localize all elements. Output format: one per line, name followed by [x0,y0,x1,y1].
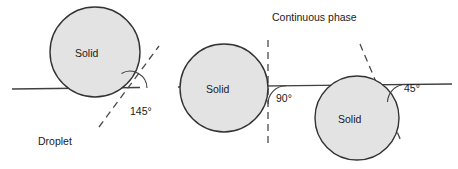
caption-continuous-phase: Continuous phase [272,12,357,23]
contact-angle-diagram: Continuous phase Droplet Solid Solid Sol… [0,0,458,169]
solid-label-left: Solid [75,48,98,59]
particle-right-group [315,44,402,160]
angle-label-145: 145° [130,106,152,117]
particle-middle-group [180,40,286,146]
angle-label-45: 45° [404,83,420,94]
angle-label-90: 90° [276,93,292,104]
solid-label-middle: Solid [206,84,229,95]
solid-label-right: Solid [338,114,361,125]
caption-droplet: Droplet [38,136,72,147]
